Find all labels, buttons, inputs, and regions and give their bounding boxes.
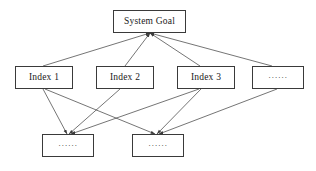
node-label-index-2: Index 2 (110, 73, 140, 83)
node-sub-more-1[interactable]: ······ (42, 134, 94, 157)
node-index-more[interactable]: ······ (252, 66, 304, 89)
edge-index-3-to-system-goal (150, 33, 200, 66)
node-label-sub-more-2: ······ (148, 142, 168, 150)
edge-index-2-to-system-goal (125, 33, 150, 66)
node-label-index-3: Index 3 (191, 73, 221, 83)
edge-index-more-to-system-goal (150, 33, 272, 66)
node-sub-more-2[interactable]: ······ (132, 134, 184, 157)
edges-group (43, 33, 277, 134)
node-label-index-more: ······ (268, 74, 288, 82)
edge-index-1-to-sub-more-2 (45, 89, 155, 134)
node-label-index-1: Index 1 (29, 73, 59, 83)
node-system-goal[interactable]: System Goal (113, 10, 186, 33)
edge-index-2-to-sub-more-1 (69, 89, 120, 134)
edge-index-more-to-sub-more-2 (159, 89, 277, 134)
node-index-2[interactable]: Index 2 (96, 66, 154, 89)
system-goal-diagram: System Goal Index 1 Index 2 Index 3 ····… (0, 0, 316, 171)
edge-index-1-to-system-goal (43, 33, 150, 66)
edge-index-3-to-sub-more-1 (71, 89, 199, 134)
edge-index-1-to-sub-more-1 (43, 89, 67, 134)
node-index-1[interactable]: Index 1 (15, 66, 73, 89)
node-label-sub-more-1: ······ (58, 142, 78, 150)
node-label-system-goal: System Goal (124, 17, 175, 27)
node-index-3[interactable]: Index 3 (177, 66, 235, 89)
